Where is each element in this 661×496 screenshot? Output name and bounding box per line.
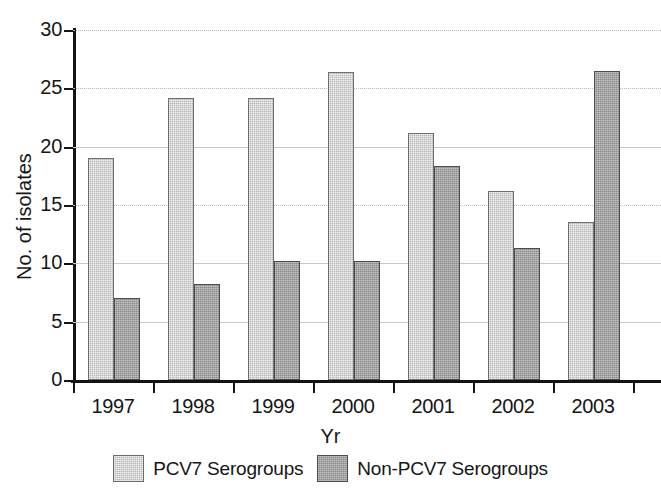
y-tick-mark [64, 88, 73, 90]
y-tick-label: 20 [22, 136, 62, 156]
x-tick-label-1999: 1999 [233, 394, 313, 418]
x-tick-label-2001: 2001 [393, 394, 473, 418]
bar-1999-non-pcv7 [274, 261, 300, 380]
y-tick-mark [64, 263, 73, 265]
y-tick-label-wrap: 15 [0, 194, 62, 214]
x-tick-mark [233, 383, 235, 393]
bar-1998-non-pcv7 [194, 284, 220, 380]
y-tick-label: 15 [22, 194, 62, 214]
y-tick-mark [64, 380, 73, 382]
y-tick-label-wrap: 5 [0, 311, 62, 331]
bar-1997-pcv7 [88, 158, 114, 380]
y-tick-label-wrap: 0 [0, 369, 62, 389]
x-tick-mark [553, 383, 555, 393]
x-tick-mark [473, 383, 475, 393]
bar-2003-pcv7 [568, 222, 594, 380]
bar-chart-figure: No. of isolates 051015202530 19971998199… [0, 0, 661, 496]
bar-2002-non-pcv7 [514, 248, 540, 380]
x-tick-mark [73, 383, 75, 393]
x-tick-mark [153, 383, 155, 393]
y-tick-label: 5 [22, 311, 62, 331]
bar-2001-non-pcv7 [434, 166, 460, 380]
x-tick-label-2000: 2000 [313, 394, 393, 418]
y-tick-label: 30 [22, 19, 62, 39]
x-tick-label-2003: 2003 [553, 394, 633, 418]
plot-area [73, 30, 661, 380]
legend-label: PCV7 Serogroups [153, 458, 303, 480]
x-tick-mark [393, 383, 395, 393]
legend-item-non-pcv7[interactable]: Non-PCV7 Serogroups [317, 455, 548, 482]
bar-2003-non-pcv7 [594, 71, 620, 380]
y-tick-label-wrap: 10 [0, 252, 62, 272]
x-tick-mark [313, 383, 315, 393]
x-tick-label-1998: 1998 [153, 394, 233, 418]
chart-legend: PCV7 SerogroupsNon-PCV7 Serogroups [0, 455, 661, 482]
bar-1997-non-pcv7 [114, 298, 140, 380]
x-tick-mark [633, 383, 635, 393]
legend-label: Non-PCV7 Serogroups [357, 458, 548, 480]
bar-1999-pcv7 [248, 98, 274, 380]
y-tick-mark [64, 147, 73, 149]
x-axis-title: Yr [0, 425, 661, 448]
bar-2001-pcv7 [408, 133, 434, 380]
x-tick-label-1997: 1997 [73, 394, 153, 418]
y-tick-label-wrap: 20 [0, 136, 62, 156]
legend-swatch-icon [113, 455, 144, 482]
y-tick-mark [64, 205, 73, 207]
y-tick-label-wrap: 25 [0, 77, 62, 97]
y-tick-label: 10 [22, 252, 62, 272]
y-tick-label-wrap: 30 [0, 19, 62, 39]
y-tick-label: 25 [22, 77, 62, 97]
bar-2000-pcv7 [328, 72, 354, 380]
legend-item-pcv7[interactable]: PCV7 Serogroups [113, 455, 303, 482]
y-tick-label: 0 [22, 369, 62, 389]
x-axis-line [71, 380, 661, 383]
y-tick-mark [64, 322, 73, 324]
bar-1998-pcv7 [168, 98, 194, 380]
legend-swatch-icon [317, 455, 348, 482]
x-tick-label-2002: 2002 [473, 394, 553, 418]
bar-2002-pcv7 [488, 191, 514, 380]
bar-2000-non-pcv7 [354, 261, 380, 380]
y-tick-mark [64, 30, 73, 32]
